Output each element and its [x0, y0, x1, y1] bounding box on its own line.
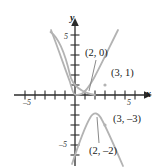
x-axis-label: x: [146, 89, 151, 99]
point-label-3-neg3: (3, –3): [113, 114, 141, 125]
x-tick-label-pos5: 5: [127, 99, 131, 107]
graph-figure: y x –5 5 5 –5 (2, 0) (3, 1) (3, –3) (2, …: [0, 0, 157, 167]
point-marker-3-neg3: [103, 123, 106, 126]
y-tick-label-neg5: –5: [59, 141, 67, 149]
point-label-2-0: (2, 0): [85, 48, 108, 59]
upward-parabola-path: [51, 30, 118, 95]
point-label-3-1: (3, 1): [111, 68, 134, 79]
y-axis-label: y: [70, 13, 74, 23]
upward-parabola: [51, 32, 96, 95]
point-marker-3-1: [103, 83, 106, 86]
leader-line-p4: [97, 117, 99, 143]
point-label-2-neg2: (2, –2): [89, 146, 117, 157]
x-tick-label-neg5: –5: [23, 99, 31, 107]
y-tick-label-pos5: 5: [64, 33, 68, 41]
coordinate-plane-svg: [0, 0, 157, 167]
